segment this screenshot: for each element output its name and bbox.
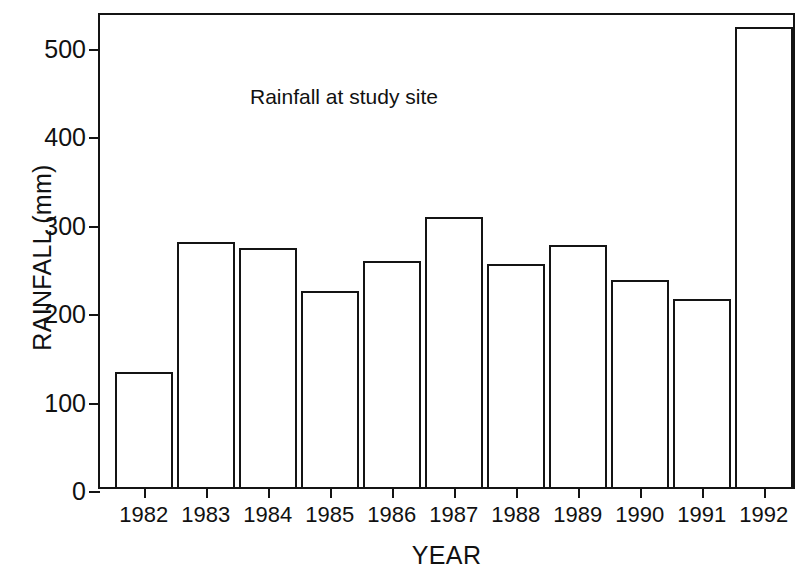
x-tick-label-1990: 1990 (615, 504, 664, 526)
bar-1991 (673, 299, 731, 487)
bar-1986 (363, 261, 421, 487)
x-tick-1987 (454, 487, 456, 498)
chart-title: Rainfall at study site (250, 85, 438, 109)
x-tick-1985 (330, 487, 332, 498)
x-tick-1986 (392, 487, 394, 498)
y-tick-500 (89, 49, 100, 51)
bar-1992 (735, 27, 793, 487)
x-tick-1991 (702, 487, 704, 498)
x-tick-label-1982: 1982 (119, 504, 168, 526)
x-tick-1983 (206, 487, 208, 498)
y-tick-label-400: 400 (44, 125, 86, 150)
x-tick-label-1985: 1985 (305, 504, 354, 526)
y-tick-0 (89, 491, 100, 493)
x-tick-1992 (764, 487, 766, 498)
bar-1983 (177, 242, 235, 487)
bar-1990 (611, 280, 669, 487)
y-tick-400 (89, 137, 100, 139)
x-tick-label-1991: 1991 (677, 504, 726, 526)
y-tick-label-100: 100 (44, 390, 86, 415)
y-tick-200 (89, 314, 100, 316)
y-tick-label-300: 300 (44, 213, 86, 238)
x-tick-1989 (578, 487, 580, 498)
x-tick-1982 (144, 487, 146, 498)
bar-1982 (115, 372, 173, 487)
y-tick-300 (89, 226, 100, 228)
x-tick-label-1992: 1992 (739, 504, 788, 526)
rainfall-bar-chart-figure: RAINFALL (mm) Rainfall at study site 010… (0, 0, 807, 585)
x-tick-label-1987: 1987 (429, 504, 478, 526)
plot-inner: Rainfall at study site 0100200300400500 … (100, 15, 793, 487)
x-tick-1984 (268, 487, 270, 498)
y-tick-label-200: 200 (44, 302, 86, 327)
y-tick-100 (89, 403, 100, 405)
bar-1988 (487, 264, 545, 487)
y-tick-label-500: 500 (44, 36, 86, 61)
bar-1987 (425, 217, 483, 487)
bar-1984 (239, 248, 297, 487)
x-tick-label-1989: 1989 (553, 504, 602, 526)
x-tick-label-1984: 1984 (243, 504, 292, 526)
x-tick-1988 (516, 487, 518, 498)
y-tick-label-0: 0 (72, 479, 86, 504)
x-axis-title: YEAR (98, 541, 795, 570)
x-tick-label-1983: 1983 (181, 504, 230, 526)
plot-area: Rainfall at study site 0100200300400500 … (98, 13, 795, 489)
x-tick-label-1988: 1988 (491, 504, 540, 526)
x-tick-label-1986: 1986 (367, 504, 416, 526)
x-tick-1990 (640, 487, 642, 498)
bar-1985 (301, 291, 359, 487)
bar-1989 (549, 245, 607, 487)
